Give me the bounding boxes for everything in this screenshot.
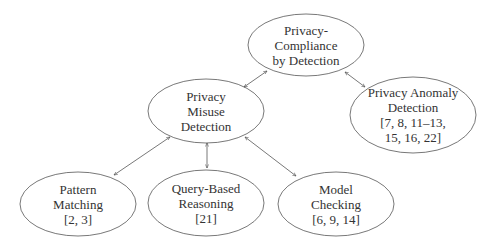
node-label-line: Misuse [181, 104, 232, 119]
node-label-root: Privacy-Complianceby Detection [273, 23, 340, 68]
node-label-line: Privacy [181, 89, 232, 104]
node-label-line: Reasoning [172, 196, 241, 211]
node-label-line: [21] [172, 211, 241, 226]
edges-group [114, 71, 365, 176]
node-label-line: Model [311, 182, 361, 197]
node-label-line: Privacy Anomaly [368, 85, 459, 100]
node-label-line: [2, 3] [53, 212, 103, 227]
node-label-model: ModelChecking[6, 9, 14] [311, 182, 361, 227]
node-label-line: [7, 8, 11–13, [368, 115, 459, 130]
edge-root-anomaly [345, 72, 365, 87]
node-label-line: Compliance [273, 38, 340, 53]
edge-misuse-root [244, 71, 267, 87]
node-label-line: by Detection [273, 53, 340, 68]
node-label-line: Pattern [53, 182, 103, 197]
node-label-line: 15, 16, 22] [368, 130, 459, 145]
node-label-line: Matching [53, 197, 103, 212]
node-label-line: Detection [181, 119, 232, 134]
node-label-line: Query-Based [172, 181, 241, 196]
node-label-query: Query-BasedReasoning[21] [172, 181, 241, 226]
node-label-line: [6, 9, 14] [311, 212, 361, 227]
node-label-anomaly: Privacy AnomalyDetection[7, 8, 11–13,15,… [368, 85, 459, 145]
node-label-line: Detection [368, 100, 459, 115]
node-label-line: Privacy- [273, 23, 340, 38]
node-label-pattern: PatternMatching[2, 3] [53, 182, 103, 227]
edge-pattern-misuse [114, 137, 170, 175]
node-label-misuse: PrivacyMisuseDetection [181, 89, 232, 134]
edge-model-misuse [245, 137, 296, 176]
node-label-line: Checking [311, 197, 361, 212]
